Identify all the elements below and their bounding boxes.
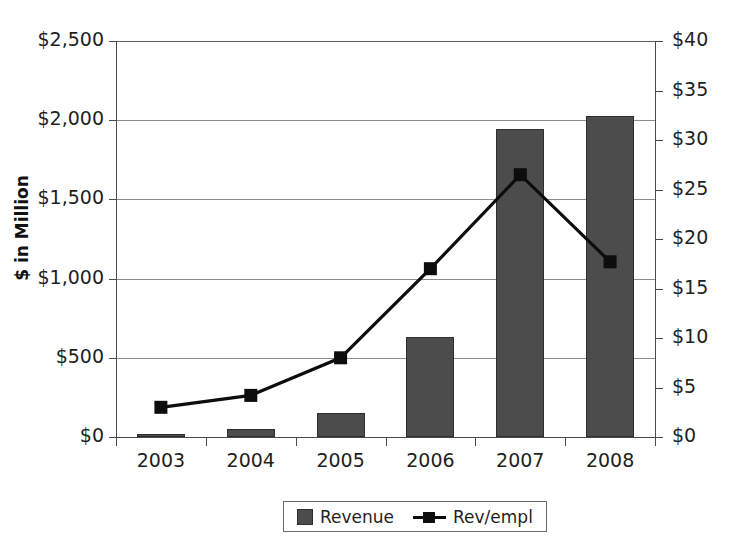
left-axis-line: [116, 41, 117, 438]
right-axis-tick-label: $25: [672, 177, 734, 199]
gridline: [116, 279, 655, 280]
bar: [317, 413, 365, 437]
bar: [586, 116, 634, 437]
right-axis-line: [655, 41, 656, 438]
chart-legend: Revenue Rev/empl: [283, 501, 547, 532]
right-axis-tick: [655, 190, 663, 191]
x-axis-tick: [386, 437, 387, 446]
right-axis-tick-label: $40: [672, 28, 734, 50]
x-axis-tick-label: 2007: [475, 449, 565, 471]
plot-top-border: [116, 41, 655, 42]
left-axis-tick-label: $1,500: [8, 186, 104, 208]
right-axis-tick-label: $30: [672, 127, 734, 149]
x-axis-tick: [475, 437, 476, 446]
bar: [406, 337, 454, 437]
x-axis-line: [116, 437, 655, 438]
right-axis-tick-label: $15: [672, 276, 734, 298]
right-axis-tick-label: $20: [672, 226, 734, 248]
right-axis-tick: [655, 140, 663, 141]
legend-label-rev-per-empl: Rev/empl: [453, 507, 533, 527]
right-axis-tick-label: $5: [672, 375, 734, 397]
legend-swatch-bar-icon: [297, 509, 313, 525]
bar: [227, 429, 275, 437]
x-axis-tick: [116, 437, 117, 446]
left-axis-tick-label: $0: [8, 424, 104, 446]
left-axis-tick: [109, 358, 116, 359]
right-axis-tick: [655, 91, 663, 92]
x-axis-tick-label: 2005: [296, 449, 386, 471]
x-axis-tick: [655, 437, 656, 446]
right-axis-tick: [655, 289, 663, 290]
x-axis-tick-label: 2008: [565, 449, 655, 471]
x-axis-tick: [565, 437, 566, 446]
right-axis-tick: [655, 239, 663, 240]
right-axis-tick: [655, 41, 663, 42]
x-axis-tick-label: 2003: [116, 449, 206, 471]
right-axis-tick-label: $35: [672, 78, 734, 100]
left-axis-tick: [109, 279, 116, 280]
left-axis-tick-label: $500: [8, 345, 104, 367]
legend-swatch-line-icon: [413, 510, 446, 524]
left-axis-tick-label: $2,000: [8, 107, 104, 129]
right-axis-tick: [655, 388, 663, 389]
legend-item-rev-per-empl: Rev/empl: [413, 507, 533, 527]
gridline: [116, 358, 655, 359]
right-axis-tick: [655, 437, 663, 438]
x-axis-tick-label: 2006: [385, 449, 475, 471]
left-axis-tick-label: $1,000: [8, 266, 104, 288]
legend-item-revenue: Revenue: [297, 507, 394, 527]
plot-area: [116, 41, 655, 437]
gridline: [116, 120, 655, 121]
x-axis-tick-label: 2004: [206, 449, 296, 471]
right-axis-tick: [655, 338, 663, 339]
left-axis-tick-label: $2,500: [8, 28, 104, 50]
revenue-chart: $ in Million $0$500$1,000$1,500$2,000$2,…: [0, 0, 737, 550]
right-axis-tick-label: $10: [672, 325, 734, 347]
legend-label-revenue: Revenue: [320, 507, 394, 527]
left-axis-tick: [109, 120, 116, 121]
bar: [496, 129, 544, 437]
x-axis-tick: [206, 437, 207, 446]
gridline: [116, 199, 655, 200]
x-axis-tick: [296, 437, 297, 446]
left-axis-tick: [109, 41, 116, 42]
left-axis-tick: [109, 437, 116, 438]
right-axis-tick-label: $0: [672, 424, 734, 446]
left-axis-tick: [109, 199, 116, 200]
